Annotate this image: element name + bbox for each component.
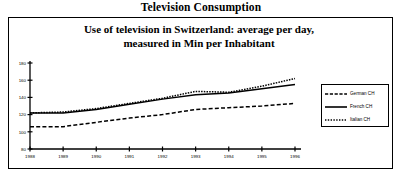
legend-item-italian-ch: Italian CH <box>325 114 388 126</box>
series-line-french-ch <box>30 85 295 113</box>
svg-text:1994: 1994 <box>224 154 234 159</box>
y-axis-tick-labels: 80100120140160180 <box>19 61 27 152</box>
series-line-german-ch <box>30 78 295 112</box>
data-series-group <box>30 78 295 126</box>
legend-swatch-italian-ch <box>325 116 347 124</box>
legend-label-italian-ch: Italian CH <box>350 116 370 124</box>
svg-text:1988: 1988 <box>25 154 35 159</box>
legend-item-french-ch: French CH <box>325 101 388 113</box>
legend-swatch-german-ch <box>325 90 347 98</box>
legend-swatch-french-ch <box>325 103 347 111</box>
legend-label-german-ch: German CH <box>350 90 375 98</box>
chart-legend: German CH French CH Italian CH <box>321 84 389 127</box>
svg-text:1993: 1993 <box>191 154 201 159</box>
svg-text:100: 100 <box>19 130 27 135</box>
chart-frame: Use of television in Switzerland: averag… <box>8 17 393 169</box>
chart-figure: Television Consumption Use of television… <box>0 0 402 173</box>
legend-item-german-ch: German CH <box>325 88 388 100</box>
svg-text:80: 80 <box>21 147 26 152</box>
svg-text:1990: 1990 <box>91 154 101 159</box>
x-axis-tick-labels: 198819891990199119921993199419951996 <box>25 154 300 159</box>
svg-text:1989: 1989 <box>58 154 68 159</box>
svg-text:1991: 1991 <box>124 154 134 159</box>
page-title: Television Consumption <box>0 0 402 16</box>
svg-text:140: 140 <box>19 95 27 100</box>
svg-text:180: 180 <box>19 61 27 66</box>
svg-text:1995: 1995 <box>257 154 267 159</box>
legend-label-french-ch: French CH <box>350 103 372 111</box>
svg-text:160: 160 <box>19 78 27 83</box>
svg-text:120: 120 <box>19 112 27 117</box>
svg-text:1996: 1996 <box>290 154 300 159</box>
series-line-italian-ch <box>30 103 295 126</box>
svg-text:1992: 1992 <box>158 154 168 159</box>
